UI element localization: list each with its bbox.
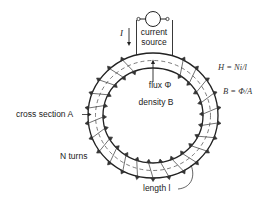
winding-turn [189, 69, 196, 83]
toroid-diagram: current source I flux Φ density B H = Ni… [0, 0, 268, 206]
winding-turn [92, 128, 105, 137]
source-label-line2: source [141, 37, 167, 47]
arrow-down-icon [127, 42, 131, 46]
current-symbol: I [119, 28, 124, 38]
flux-label: flux Φ [149, 80, 172, 90]
winding-turn [191, 146, 206, 151]
terminal-left-icon [137, 17, 140, 20]
winding-turn [110, 148, 117, 162]
winding-tick-icon [103, 115, 107, 119]
cross-section-label: cross section A [16, 109, 73, 119]
winding-turn [161, 162, 169, 176]
winding-turn [137, 160, 138, 176]
winding-tick-icon [135, 176, 139, 180]
winding-tick-icon [166, 176, 170, 180]
winding-turn [100, 139, 110, 151]
winding-tick-icon [151, 178, 155, 182]
winding-tick-icon [89, 91, 93, 95]
winding-tick-icon [213, 136, 217, 140]
current-source: current source [137, 12, 173, 56]
terminal-right-icon [166, 17, 169, 20]
winding-turn [183, 154, 196, 163]
arrow-right-icon [88, 113, 92, 117]
winding-turn [123, 60, 134, 71]
density-label: density B [139, 97, 174, 107]
winding-tick-icon [213, 91, 217, 95]
winding-tick-icon [85, 121, 89, 125]
winding-turn [172, 159, 183, 170]
source-circle-icon [146, 12, 161, 27]
current-indicator: I [119, 28, 131, 46]
winding-tick-icon [195, 134, 199, 138]
winding-tick-icon [85, 106, 89, 110]
winding-tick-icon [199, 112, 203, 116]
winding-turn [123, 155, 126, 170]
winding-tick-icon [146, 159, 150, 163]
winding-turn [180, 60, 183, 75]
winding-tick-icon [104, 103, 108, 107]
winding-tick-icon [158, 159, 162, 163]
winding-tick-icon [217, 106, 221, 110]
flux-indicator: flux Φ density B [139, 60, 174, 108]
winding-turn [201, 93, 214, 102]
length-leader-line [178, 165, 193, 189]
winding-tick-icon [107, 93, 111, 97]
winding-tick-icon [89, 136, 93, 140]
winding-tick-icon [198, 123, 202, 127]
winding-turn [99, 80, 114, 85]
length-label: length l [143, 183, 171, 193]
turns-label: N turns [60, 151, 87, 161]
equation-B: B = Φ/A [223, 86, 253, 96]
equation-H: H = Ni/l [217, 62, 248, 72]
winding-tick-icon [217, 121, 221, 125]
cross-section-callout: cross section A [16, 109, 92, 119]
source-label-line1: current [141, 27, 168, 37]
